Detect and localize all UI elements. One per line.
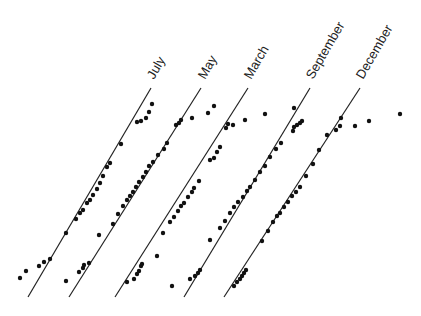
series-layer: JulyMayMarchSeptemberDecember [18, 18, 402, 297]
data-point [156, 153, 160, 157]
data-point [190, 190, 194, 194]
data-point [311, 162, 315, 166]
data-point [367, 119, 371, 123]
data-point [74, 217, 78, 221]
data-point [198, 268, 202, 272]
data-point [105, 165, 109, 169]
data-point [182, 201, 186, 205]
data-point [192, 186, 196, 190]
data-point [165, 141, 169, 145]
data-point [121, 204, 125, 208]
data-point [218, 145, 222, 149]
data-point [190, 116, 194, 120]
data-point [278, 211, 282, 215]
data-point [258, 170, 262, 174]
data-point [236, 200, 240, 204]
series-label: May [195, 52, 221, 81]
data-point [215, 150, 219, 154]
data-point [91, 193, 95, 197]
data-point [87, 261, 91, 265]
data-point [81, 208, 85, 212]
data-point [253, 178, 257, 182]
probability-plot-chart: JulyMayMarchSeptemberDecember [0, 0, 421, 316]
data-point [290, 194, 294, 198]
data-point [144, 170, 148, 174]
data-point [170, 284, 174, 288]
data-point [338, 124, 342, 128]
data-point [218, 226, 222, 230]
data-point [304, 174, 308, 178]
data-point [212, 156, 216, 160]
data-point [151, 160, 155, 164]
data-point [266, 229, 270, 233]
data-point [206, 111, 210, 115]
series-may: May [64, 52, 220, 297]
data-point [197, 179, 201, 183]
data-point [208, 238, 212, 242]
data-point [141, 175, 145, 179]
data-point [108, 161, 112, 165]
data-point [244, 268, 248, 272]
data-point [155, 254, 159, 258]
data-point [37, 264, 41, 268]
data-point [248, 185, 252, 189]
data-point [64, 231, 68, 235]
data-point [125, 280, 129, 284]
data-point [150, 102, 154, 106]
series-label: September [303, 18, 348, 81]
data-point [48, 257, 52, 261]
data-point [135, 120, 139, 124]
data-point [271, 220, 275, 224]
data-point [245, 189, 249, 193]
data-point [228, 211, 232, 215]
data-point [353, 124, 357, 128]
data-point [128, 194, 132, 198]
data-point [18, 276, 22, 280]
data-point [116, 212, 120, 216]
data-point [231, 123, 235, 127]
data-point [97, 233, 101, 237]
data-point [186, 195, 190, 199]
data-point [188, 277, 192, 281]
data-point [168, 220, 172, 224]
data-point [317, 148, 321, 152]
data-point [279, 141, 283, 145]
data-point [325, 133, 329, 137]
data-point [42, 260, 46, 264]
data-point [263, 164, 267, 168]
data-point [268, 155, 272, 159]
data-point [95, 187, 99, 191]
data-point [292, 106, 296, 110]
data-point [140, 262, 144, 266]
data-point [223, 219, 227, 223]
data-point [291, 129, 295, 133]
data-point [224, 126, 228, 130]
data-point [137, 180, 141, 184]
data-point [24, 269, 28, 273]
series-label: March [241, 43, 272, 82]
data-point [82, 263, 86, 267]
data-point [162, 147, 166, 151]
data-point [398, 112, 402, 116]
data-point [339, 116, 343, 120]
data-point [64, 279, 68, 283]
data-point [263, 112, 267, 116]
data-point [147, 110, 151, 114]
data-point [298, 185, 302, 189]
data-point [212, 104, 216, 108]
data-point [119, 142, 123, 146]
data-point [282, 205, 286, 209]
data-point [232, 284, 236, 288]
data-point [208, 158, 212, 162]
data-point [334, 128, 338, 132]
data-point [232, 205, 236, 209]
data-point [226, 122, 230, 126]
data-point [179, 118, 183, 122]
data-point [172, 215, 176, 219]
data-point [98, 181, 102, 185]
data-point [131, 190, 135, 194]
data-point [161, 231, 165, 235]
data-point [134, 185, 138, 189]
data-point [125, 198, 129, 202]
data-point [147, 164, 151, 168]
